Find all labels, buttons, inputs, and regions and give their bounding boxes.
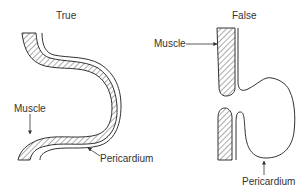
false-pericardium-label: Pericardium	[242, 177, 295, 187]
false-muscle-lower	[218, 108, 232, 160]
false-muscle-upper	[217, 28, 235, 96]
false-pericardium-line	[236, 28, 295, 160]
false-panel-title: False	[232, 11, 256, 21]
diagram-canvas	[0, 0, 308, 190]
true-muscle-wall	[18, 33, 117, 160]
false-muscle-label: Muscle	[154, 39, 186, 49]
false-panel-drawing	[217, 28, 295, 160]
true-panel-drawing	[18, 33, 121, 160]
true-muscle-label: Muscle	[14, 104, 46, 114]
true-pericardium-label: Pericardium	[100, 154, 153, 164]
true-pericardium-arrow	[88, 148, 100, 156]
true-panel-title: True	[56, 11, 76, 21]
